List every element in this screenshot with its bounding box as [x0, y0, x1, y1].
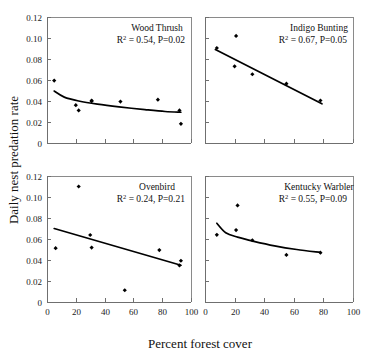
data-point: [179, 259, 183, 263]
y-tick-label: 0.12: [26, 172, 42, 182]
panel-species-title: Ovenbird: [139, 182, 175, 192]
data-point: [235, 203, 239, 207]
data-point: [234, 228, 238, 232]
x-tick-label: 60: [129, 307, 139, 317]
data-point: [74, 103, 78, 107]
x-tick-label: 20: [231, 307, 241, 317]
data-point: [284, 253, 288, 257]
data-point: [318, 251, 322, 255]
y-tick-label: 0: [38, 139, 43, 149]
x-tick-label: 40: [101, 307, 111, 317]
y-tick-label: 0: [38, 298, 43, 308]
x-tick-label: 80: [158, 307, 168, 317]
y-tick-label: 0.02: [26, 118, 42, 128]
y-tick-label: 0.04: [26, 97, 42, 107]
regression-fit-line: [54, 229, 181, 266]
y-tick-label: 0.10: [26, 193, 42, 203]
x-tick-label: 60: [290, 307, 300, 317]
x-tick-label: 0: [45, 307, 50, 317]
panel-kentucky-warbler: 020406080100Kentucky WarblerR2 = 0.55, P…: [203, 176, 361, 317]
regression-fit-line: [217, 223, 321, 252]
x-tick-label: 100: [185, 307, 199, 317]
figure-svg: 0.120.100.080.060.040.020Wood ThrushR2 =…: [0, 0, 377, 360]
panel-ovenbird: 0.120.100.080.060.040.020020406080100Ove…: [26, 172, 199, 317]
panel-species-title: Wood Thrush: [131, 23, 183, 33]
x-tick-label: 0: [203, 307, 208, 317]
data-point: [54, 246, 58, 250]
figure-container: 0.120.100.080.060.040.020Wood ThrushR2 =…: [0, 0, 377, 360]
y-tick-label: 0.10: [26, 34, 42, 44]
panel-statistics: R2 = 0.24, P=0.21: [117, 193, 186, 204]
panel-statistics: R2 = 0.55, P=0.09: [279, 193, 348, 204]
data-point: [157, 248, 161, 252]
y-tick-label: 0.12: [26, 13, 42, 23]
x-tick-label: 20: [72, 307, 82, 317]
data-point: [88, 233, 92, 237]
data-point: [77, 108, 81, 112]
data-point: [234, 34, 238, 38]
x-tick-label: 80: [319, 307, 329, 317]
data-point: [77, 184, 81, 188]
panel-species-title: Kentucky Warbler: [284, 182, 354, 192]
regression-fit-line: [54, 91, 181, 112]
data-point: [118, 99, 122, 103]
data-point: [250, 72, 254, 76]
y-tick-label: 0.08: [26, 214, 42, 224]
data-point: [156, 98, 160, 102]
data-point: [90, 246, 94, 250]
regression-fit-line: [215, 50, 322, 104]
data-point: [123, 288, 127, 292]
panel-species-title: Indigo Bunting: [290, 23, 348, 33]
data-point: [179, 122, 183, 126]
y-tick-label: 0.04: [26, 256, 42, 266]
x-tick-label: 100: [347, 307, 361, 317]
data-point: [215, 233, 219, 237]
panel-statistics: R2 = 0.67, P=0.05: [279, 34, 348, 45]
y-tick-label: 0.06: [26, 76, 42, 86]
y-tick-label: 0.08: [26, 55, 42, 65]
y-tick-label: 0.06: [26, 235, 42, 245]
panel-wood-thrush: 0.120.100.080.060.040.020Wood ThrushR2 =…: [26, 13, 191, 149]
panel-indigo-bunting: Indigo BuntingR2 = 0.67, P=0.05: [205, 17, 354, 144]
y-tick-label: 0.02: [26, 277, 42, 287]
x-tick-label: 40: [260, 307, 270, 317]
y-axis-title: Daily nest predation rate: [6, 96, 21, 224]
x-axis-title: Percent forest cover: [148, 336, 253, 351]
panel-statistics: R2 = 0.54, P=0.02: [117, 34, 186, 45]
data-point: [52, 78, 56, 82]
data-point: [233, 64, 237, 68]
